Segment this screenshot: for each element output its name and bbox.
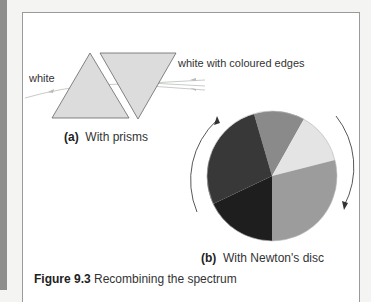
input-ray-label: white (29, 72, 55, 84)
arrowhead-icon (342, 201, 348, 210)
panel-b-tag: (b) (201, 251, 216, 265)
newtons-disc (191, 111, 354, 241)
figure-caption: Figure 9.3 Recombining the spectrum (34, 272, 237, 286)
figure-title: Recombining the spectrum (94, 272, 237, 286)
output-ray-label: white with coloured edges (178, 57, 305, 69)
arrowhead-icon (214, 116, 220, 125)
panel-b-caption: (b) With Newton's disc (201, 251, 324, 265)
figure-number: Figure 9.3 (34, 272, 91, 286)
ray-arrow-icon (190, 88, 196, 91)
panel-b-text: With Newton's disc (223, 251, 324, 265)
edge-ray-bottom (150, 86, 205, 90)
panel-a-caption: (a) With prisms (64, 130, 148, 144)
rotation-arrow-right (336, 116, 354, 206)
panel-a-tag: (a) (64, 130, 79, 144)
panel-a-text: With prisms (85, 130, 148, 144)
